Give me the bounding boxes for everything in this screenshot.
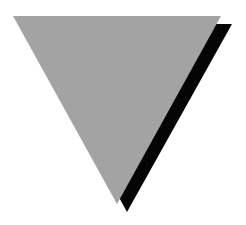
gray-triangle-icon — [13, 16, 221, 204]
triangle-graphic — [0, 0, 246, 225]
